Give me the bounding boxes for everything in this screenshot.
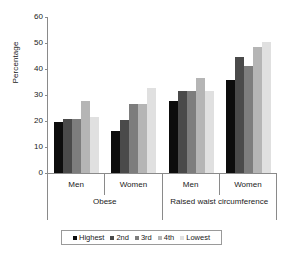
bar (244, 66, 253, 173)
category-label: Men (47, 174, 105, 195)
bar (169, 101, 178, 173)
bar-group (220, 18, 277, 173)
bar-chart: Percentage 6050403020100 MenWomenMenWome… (0, 0, 282, 258)
category-row-secondary: ObeseRaised waist circumference (47, 195, 277, 220)
bar (54, 122, 63, 173)
legend-item: Lowest (180, 233, 210, 242)
bar (120, 120, 129, 173)
category-label: Women (220, 174, 277, 195)
y-tick-label: 30 (34, 90, 43, 99)
y-tick-label: 40 (34, 64, 43, 73)
bar-groups (48, 18, 277, 173)
y-tick-label: 0 (39, 168, 43, 177)
supercategory-label: Obese (47, 195, 163, 220)
y-tick-label: 50 (34, 38, 43, 47)
bar (90, 117, 99, 173)
bar (253, 47, 262, 173)
bar (81, 101, 90, 173)
bar (63, 119, 72, 173)
supercategory-label: Raised waist circumference (163, 195, 278, 220)
legend-item: 3rd (135, 233, 152, 242)
legend-swatch-icon (135, 236, 139, 240)
category-label: Women (105, 174, 162, 195)
legend-label: Highest (79, 233, 104, 242)
legend-swatch-icon (73, 236, 77, 240)
bar-group (48, 18, 105, 173)
legend-item: 4th (158, 233, 174, 242)
y-axis-title: Percentage (11, 23, 20, 103)
bar (129, 104, 138, 173)
bar (111, 131, 120, 173)
bar (147, 88, 156, 173)
legend-swatch-icon (110, 236, 114, 240)
plot-area: 6050403020100 (47, 18, 277, 174)
legend-label: Lowest (186, 233, 210, 242)
legend-label: 2nd (116, 233, 129, 242)
chart-legend: Highest2nd3rd4thLowest (61, 230, 222, 245)
bar (262, 42, 271, 173)
legend-label: 3rd (141, 233, 152, 242)
bar (196, 78, 205, 173)
legend-swatch-icon (158, 236, 162, 240)
y-tick-label: 20 (34, 116, 43, 125)
bar (205, 91, 214, 173)
category-row-primary: MenWomenMenWomen (47, 174, 277, 195)
bar (235, 57, 244, 173)
category-axis: MenWomenMenWomen ObeseRaised waist circu… (47, 174, 277, 220)
y-tick-label: 10 (34, 142, 43, 151)
bar (72, 119, 81, 173)
bar (178, 91, 187, 173)
category-label: Men (163, 174, 220, 195)
bar (187, 91, 196, 173)
bar (226, 80, 235, 173)
bar-group (163, 18, 220, 173)
y-tick-label: 60 (34, 12, 43, 21)
legend-swatch-icon (180, 236, 184, 240)
bar (138, 104, 147, 173)
legend-item: 2nd (110, 233, 129, 242)
legend-label: 4th (164, 233, 174, 242)
bar-group (105, 18, 162, 173)
legend-item: Highest (73, 233, 104, 242)
